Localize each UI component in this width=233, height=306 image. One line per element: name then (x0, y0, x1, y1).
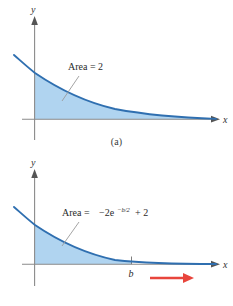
area-label-b-prefix: Area = (62, 207, 90, 218)
panel-a-plot: Area = 2 y x (0, 0, 233, 153)
shaded-area-b (35, 225, 132, 264)
caption-a: (a) (0, 136, 233, 147)
area-label-b-coefficient: −2e (99, 207, 115, 218)
area-label-b-exponent: −b/2 (117, 206, 130, 213)
panel-b-plot: Area = −2e −b/2 + 2 b y x (0, 153, 233, 306)
y-axis-arrowhead-b (31, 169, 38, 178)
leader-line-b (62, 222, 79, 246)
area-label-b-suffix: + 2 (135, 207, 148, 218)
figure-container: Area = 2 y x (a) Area = −2e (0, 0, 233, 306)
panel-a: Area = 2 y x (a) (0, 0, 233, 153)
x-axis-label-b: x (222, 259, 228, 270)
area-label-a: Area = 2 (68, 61, 103, 72)
x-axis-label-a: x (222, 114, 228, 125)
bound-label-b: b (129, 268, 134, 279)
right-arrow-icon (150, 273, 194, 283)
y-axis-label-b: y (30, 157, 36, 168)
shaded-area-a (35, 73, 213, 119)
y-axis-label-a: y (30, 4, 36, 15)
panel-b: Area = −2e −b/2 + 2 b y x (b) (0, 153, 233, 306)
y-axis-arrowhead-a (31, 16, 38, 25)
